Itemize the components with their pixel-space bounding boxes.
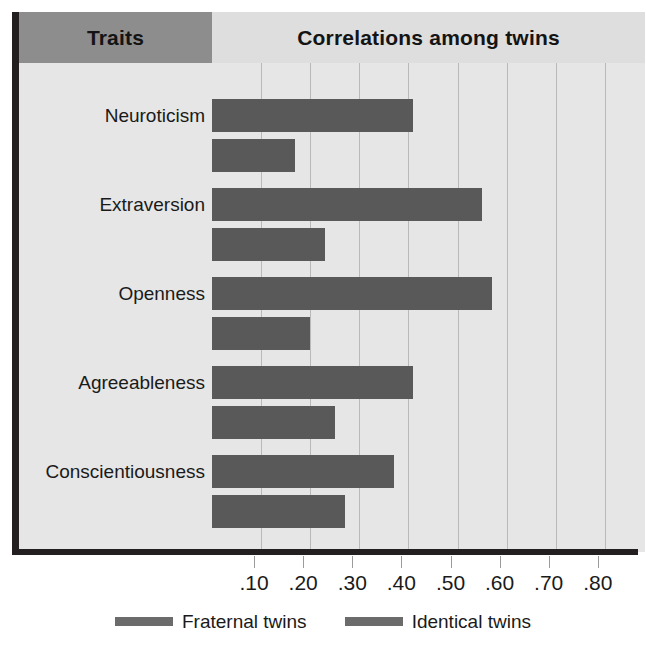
legend-label-fraternal: Fraternal twins [182,612,307,631]
legend-label-identical: Identical twins [412,612,531,631]
tick-label-60: .60 [473,571,527,595]
trait-label-neuroticism: Neuroticism [19,106,205,125]
chart-header-band: Traits Correlations among twins [19,12,645,63]
tick-mark-20 [303,556,304,568]
bar-fraternal-openness [212,317,310,350]
trait-label-extraversion: Extraversion [19,195,205,214]
bar-identical-conscientiousness [212,455,394,488]
traits-column-header: Traits [19,12,212,63]
tick-label-20: .20 [276,571,330,595]
tick-label-70: .70 [522,571,576,595]
x-axis-line [12,549,638,555]
chart-legend: Fraternal twinsIdentical twins [0,612,646,631]
tick-mark-70 [549,556,550,568]
tick-label-40: .40 [374,571,428,595]
legend-entry-identical: Identical twins [345,612,531,631]
tick-mark-10 [254,556,255,568]
tick-mark-80 [598,556,599,568]
correlations-column-header: Correlations among twins [212,12,645,63]
bar-identical-extraversion [212,188,482,221]
chart-frame: Traits Correlations among twins Neurotic… [12,12,638,552]
gridline-80 [605,63,606,552]
bar-identical-openness [212,277,492,310]
tick-label-80: .80 [571,571,625,595]
traits-header-label: Traits [87,26,144,50]
legend-entry-fraternal: Fraternal twins [115,612,307,631]
tick-label-10: .10 [227,571,281,595]
tick-mark-40 [401,556,402,568]
plot-area: NeuroticismExtraversionOpennessAgreeable… [19,63,645,552]
bar-fraternal-extraversion [212,228,325,261]
bar-fraternal-agreeableness [212,406,335,439]
trait-label-agreeableness: Agreeableness [19,373,205,392]
bar-identical-agreeableness [212,366,413,399]
tick-mark-60 [500,556,501,568]
trait-label-conscientiousness: Conscientiousness [19,462,205,481]
gridline-70 [556,63,557,552]
tick-mark-50 [451,556,452,568]
bar-identical-neuroticism [212,99,413,132]
gridline-60 [507,63,508,552]
legend-swatch-fraternal [115,617,173,626]
twin-correlation-chart: Traits Correlations among twins Neurotic… [0,0,646,646]
bar-fraternal-conscientiousness [212,495,345,528]
legend-swatch-identical [345,617,403,626]
trait-label-openness: Openness [19,284,205,303]
tick-label-30: .30 [325,571,379,595]
tick-label-50: .50 [424,571,478,595]
bar-fraternal-neuroticism [212,139,295,172]
correlations-header-label: Correlations among twins [297,26,560,50]
tick-mark-30 [352,556,353,568]
